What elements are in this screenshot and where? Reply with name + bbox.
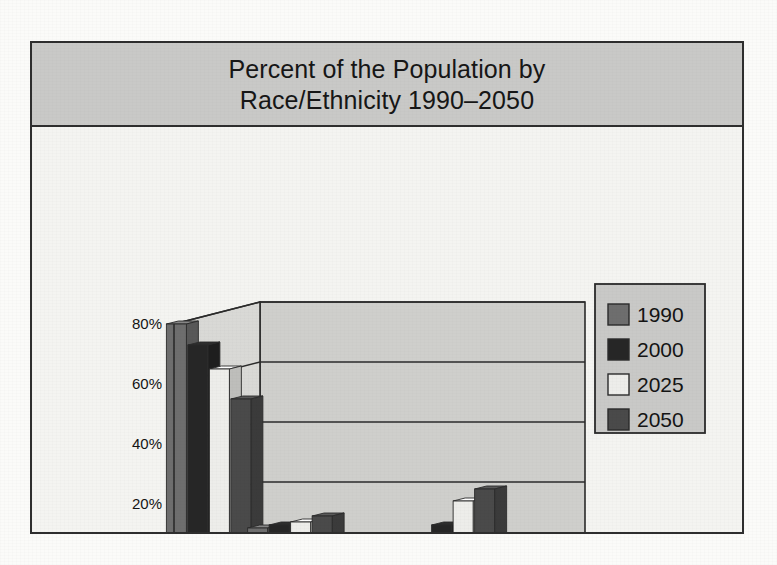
legend-label-2000[interactable]: 2000 — [637, 338, 684, 361]
chart-title-line-2: Race/Ethnicity 1990–2050 — [240, 86, 534, 114]
bar-side-face — [495, 486, 507, 532]
bar-side-face — [332, 513, 344, 532]
bar-front-face — [291, 522, 311, 532]
bar-front-face — [166, 324, 186, 532]
y-axis-tick-label: 40% — [132, 435, 162, 452]
legend-label-2050[interactable]: 2050 — [637, 408, 684, 431]
legend-swatch-2025[interactable] — [608, 374, 629, 395]
legend-label-1990[interactable]: 1990 — [637, 303, 684, 326]
bar-front-face — [453, 501, 473, 532]
bar-white-2050 — [231, 396, 263, 532]
chart-title-line-1: Percent of the Population by — [229, 55, 546, 83]
chart-plot-body: 0%20%40%60%80%WhiteBlackAsianHispanic199… — [32, 127, 742, 532]
legend-swatch-2050[interactable] — [608, 409, 629, 430]
legend-swatch-1990[interactable] — [608, 304, 629, 325]
legend-label-2025[interactable]: 2025 — [637, 373, 684, 396]
chart-title-band: Percent of the Population by Race/Ethnic… — [32, 43, 742, 127]
chart-back-wall — [260, 302, 585, 532]
bar-hispanic-2050 — [475, 486, 507, 532]
bar-front-face — [248, 528, 268, 532]
y-axis-tick-label: 60% — [132, 375, 162, 392]
bar-front-face — [269, 525, 289, 532]
y-axis-tick-label: 80% — [132, 315, 162, 332]
y-axis-tick-label: 20% — [132, 495, 162, 512]
bar-front-face — [209, 369, 229, 532]
legend-swatch-2000[interactable] — [608, 339, 629, 360]
bar-chart-svg: 0%20%40%60%80%WhiteBlackAsianHispanic199… — [32, 127, 742, 532]
bar-front-face — [231, 399, 251, 532]
bar-black-2050 — [312, 513, 344, 532]
bar-front-face — [432, 525, 452, 532]
chart-figure-frame: Percent of the Population by Race/Ethnic… — [30, 41, 744, 534]
bar-front-face — [312, 516, 332, 532]
bar-front-face — [475, 489, 495, 532]
figure-page: Percent of the Population by Race/Ethnic… — [0, 0, 777, 565]
bar-front-face — [188, 345, 208, 532]
bar-side-face — [251, 396, 263, 532]
